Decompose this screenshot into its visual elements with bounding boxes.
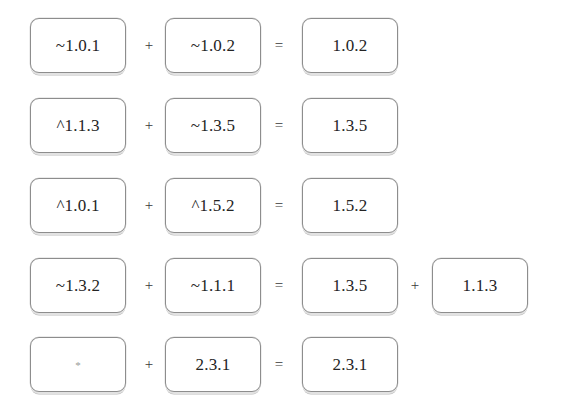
version-range-box: ~1.1.1 — [165, 258, 261, 313]
version-label: 1.1.3 — [463, 277, 498, 294]
equals-operator: = — [268, 98, 290, 153]
wildcard-label: * — [75, 360, 81, 371]
version-range-box: ~1.0.2 — [165, 18, 261, 73]
version-label: ~1.1.1 — [191, 277, 235, 294]
semver-resolution-diagram: ~1.0.1 + ~1.0.2 = 1.0.2 ^1.1.3 + ~1.3.5 … — [0, 0, 561, 412]
resolved-version-box: 1.1.3 — [432, 258, 528, 313]
resolved-version-box: 1.5.2 — [302, 178, 398, 233]
equals-operator: = — [268, 337, 290, 392]
version-label: 1.5.2 — [333, 197, 368, 214]
version-label: ^1.5.2 — [191, 197, 234, 214]
version-range-box: 2.3.1 — [165, 337, 261, 392]
equation-row: ^1.0.1 + ^1.5.2 = 1.5.2 — [0, 174, 561, 236]
version-label: ^1.0.1 — [56, 197, 99, 214]
resolved-version-box: 1.0.2 — [302, 18, 398, 73]
plus-operator: + — [138, 337, 160, 392]
version-label: 1.0.2 — [333, 37, 368, 54]
plus-operator: + — [138, 18, 160, 73]
resolved-version-box: 2.3.1 — [302, 337, 398, 392]
version-label: ~1.0.1 — [56, 37, 100, 54]
version-range-box: ^1.0.1 — [30, 178, 126, 233]
version-range-box: ^1.1.3 — [30, 98, 126, 153]
equation-row: ^1.1.3 + ~1.3.5 = 1.3.5 — [0, 94, 561, 156]
equals-operator: = — [268, 178, 290, 233]
equation-row: * + 2.3.1 = 2.3.1 — [0, 333, 561, 395]
version-label: 1.3.5 — [333, 277, 368, 294]
version-label: 1.3.5 — [333, 117, 368, 134]
equals-operator: = — [268, 258, 290, 313]
version-range-box: ~1.3.5 — [165, 98, 261, 153]
version-range-box: ^1.5.2 — [165, 178, 261, 233]
version-range-box: ~1.0.1 — [30, 18, 126, 73]
version-label: 2.3.1 — [333, 356, 368, 373]
wildcard-range-box: * — [30, 337, 126, 392]
equals-operator: = — [268, 18, 290, 73]
resolved-version-box: 1.3.5 — [302, 258, 398, 313]
plus-operator: + — [138, 98, 160, 153]
version-label: ~1.3.5 — [191, 117, 235, 134]
version-label: ~1.3.2 — [56, 277, 100, 294]
version-label: ~1.0.2 — [191, 37, 235, 54]
version-label: ^1.1.3 — [56, 117, 99, 134]
resolved-version-box: 1.3.5 — [302, 98, 398, 153]
equation-row: ~1.0.1 + ~1.0.2 = 1.0.2 — [0, 14, 561, 76]
version-range-box: ~1.3.2 — [30, 258, 126, 313]
equation-row: ~1.3.2 + ~1.1.1 = 1.3.5 + 1.1.3 — [0, 254, 561, 316]
plus-operator: + — [138, 178, 160, 233]
version-label: 2.3.1 — [196, 356, 231, 373]
plus-operator: + — [404, 258, 426, 313]
plus-operator: + — [138, 258, 160, 313]
